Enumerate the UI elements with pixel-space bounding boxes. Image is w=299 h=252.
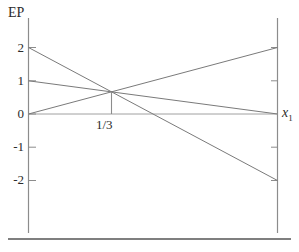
series-line-from-0 bbox=[29, 48, 278, 115]
y-tick-label-0: 0 bbox=[2, 107, 24, 120]
y-tick-label-2: 2 bbox=[2, 41, 24, 54]
y-tick-label-1: 1 bbox=[2, 74, 24, 87]
x-tick-label-one-third: 1/3 bbox=[96, 118, 113, 131]
plot-canvas bbox=[0, 0, 299, 252]
x-axis-label-subscript: 1 bbox=[288, 113, 293, 123]
chart-figure: EP x1 2 1 0 -1 -2 1/3 bbox=[0, 0, 299, 252]
x-axis-label: x1 bbox=[282, 106, 293, 123]
y-tick-label-minus-2: -2 bbox=[2, 173, 24, 186]
y-tick-label-minus-1: -1 bbox=[2, 140, 24, 153]
series-line-from-1 bbox=[29, 81, 278, 114]
y-axis-label: EP bbox=[8, 6, 24, 20]
